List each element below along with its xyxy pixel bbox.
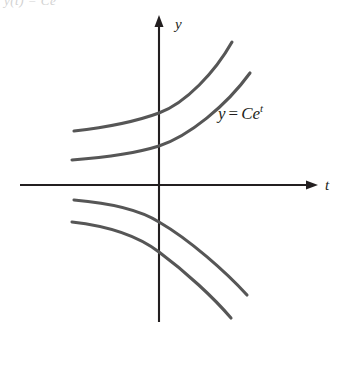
plot-canvas: y t [0, 0, 341, 380]
equation-variable: y [218, 104, 226, 123]
arrow-right-icon [306, 181, 318, 190]
arrow-up-icon [155, 15, 164, 27]
equation-annotation: y=Cet [218, 104, 263, 124]
t-axis-label: t [325, 177, 330, 193]
equation-base: Ce [241, 104, 260, 123]
exponential-family-figure: y(t) = Ce y t y=Cet [0, 0, 341, 380]
equation-operator: = [226, 104, 242, 123]
solution-curve-negative-upper [74, 200, 247, 295]
y-axis-label: y [173, 16, 182, 32]
solution-curve-negative-lower [72, 222, 231, 318]
equation-exponent: t [260, 102, 263, 114]
